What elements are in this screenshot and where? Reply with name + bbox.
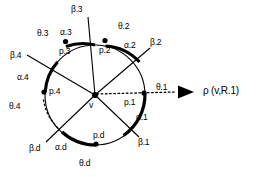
alpha-2-label: α.2 bbox=[124, 41, 135, 50]
alpha-d-label: α.d bbox=[55, 143, 66, 152]
point-p2-dot bbox=[102, 38, 107, 43]
theta-1-label: θ.1 bbox=[156, 83, 167, 92]
beta-4-ray bbox=[27, 55, 95, 95]
beta-d-ray bbox=[46, 95, 95, 142]
center-vertex-label: v bbox=[89, 101, 93, 110]
theta-3-label: θ.3 bbox=[37, 29, 48, 38]
rho-arrowhead bbox=[178, 86, 194, 99]
point-p4-dot bbox=[41, 89, 46, 94]
alpha-d-arc bbox=[62, 132, 96, 145]
point-p3-dot bbox=[63, 39, 68, 44]
beta-3-ray bbox=[88, 17, 95, 95]
beta-2-ray bbox=[95, 48, 150, 95]
rho-function-label: ρ (v,R.1) bbox=[203, 86, 239, 96]
theta-4-label: θ.4 bbox=[9, 102, 20, 111]
point-p4-label: p.4 bbox=[49, 87, 60, 96]
point-p1-dot bbox=[141, 90, 146, 95]
alpha-4-label: α.4 bbox=[17, 73, 28, 82]
theta-d-label: θ.d bbox=[79, 159, 90, 168]
rho-reference-ray bbox=[97, 92, 176, 94]
beta-d-label: β.d bbox=[29, 144, 40, 153]
beta-3-label: β.3 bbox=[71, 5, 82, 14]
beta-4-label: β.4 bbox=[10, 51, 21, 60]
center-vertex-dot bbox=[92, 92, 98, 98]
beta-2-label: β.2 bbox=[150, 38, 161, 47]
point-pd-label: p.d bbox=[93, 131, 104, 140]
point-p3-label: p.3 bbox=[59, 47, 70, 56]
point-p1-label: p.1 bbox=[124, 98, 135, 107]
theta-2-label: θ.2 bbox=[118, 22, 129, 31]
alpha-3-label: α.3 bbox=[60, 28, 71, 37]
point-pd-dot bbox=[93, 141, 98, 146]
point-p2-label: p.2 bbox=[99, 46, 110, 55]
alpha-1-label: α.1 bbox=[136, 113, 147, 122]
geometry-figure: β.3 θ.2 θ.3 α.3 α.2 β.2 p.2 p.3 β.4 α.4 … bbox=[0, 0, 256, 177]
beta-1-label: β.1 bbox=[138, 138, 149, 147]
